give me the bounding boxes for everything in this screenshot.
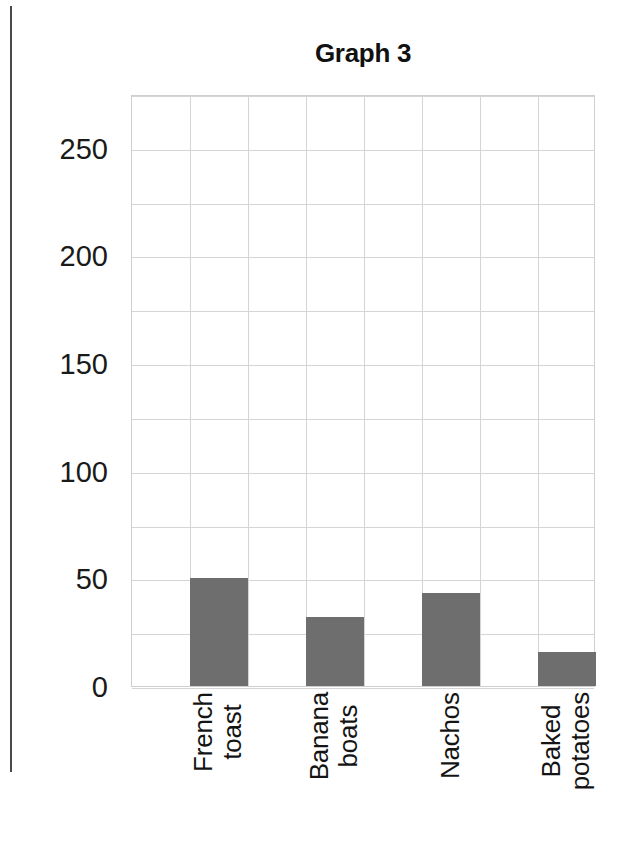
x-axis: FrenchtoastBananaboatsNachosBakedpotatoe… [131, 692, 595, 863]
x-category-label-line: potatoes [566, 692, 595, 790]
bar [190, 578, 248, 686]
x-category-label: Bananaboats [305, 692, 363, 860]
x-category-label-text: Bakedpotatoes [537, 692, 595, 790]
bar [422, 593, 480, 686]
bar-chart-figure: Graph 3 250200150100500 FrenchtoastBanan… [0, 0, 634, 863]
x-category-label-text: Bananaboats [305, 692, 363, 780]
y-tick-label: 100 [2, 457, 120, 486]
y-tick-label: 250 [2, 134, 120, 163]
bars-layer [132, 96, 594, 686]
x-category-label-line: Banana [305, 692, 334, 780]
x-category-label-line: French [189, 692, 218, 772]
x-category-label-line: Nachos [435, 692, 464, 779]
x-category-label-text: Nachos [435, 692, 464, 779]
gridline-horizontal [132, 688, 594, 689]
bar [538, 652, 596, 686]
y-tick-label: 150 [2, 350, 120, 379]
bar [306, 617, 364, 686]
x-category-label-line: toast [218, 692, 247, 772]
y-tick-label: 50 [2, 565, 120, 594]
chart-title: Graph 3 [131, 38, 595, 69]
y-axis: 250200150100500 [0, 0, 120, 863]
x-category-label: Bakedpotatoes [537, 692, 595, 860]
x-category-label-line: boats [334, 692, 363, 780]
x-category-label-line: Baked [537, 692, 566, 790]
y-tick-label: 0 [2, 673, 120, 702]
x-category-label: Frenchtoast [189, 692, 247, 860]
y-tick-label: 200 [2, 242, 120, 271]
x-category-label: Nachos [421, 692, 479, 860]
x-category-label-text: Frenchtoast [189, 692, 247, 772]
plot-area [131, 95, 595, 687]
